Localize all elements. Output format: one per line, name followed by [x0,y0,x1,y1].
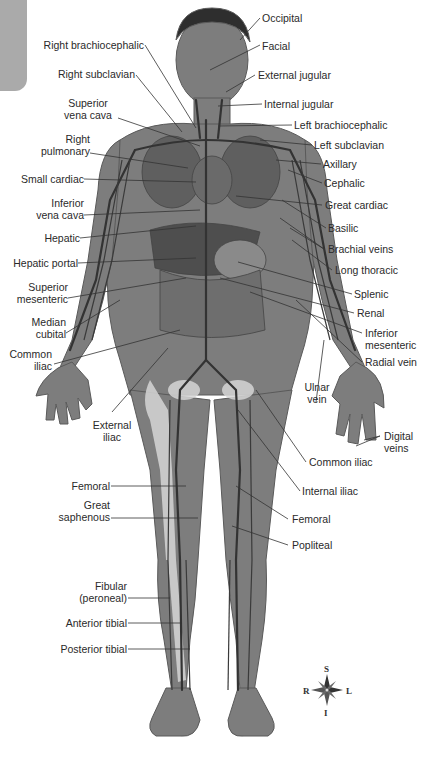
label-popliteal: Popliteal [292,539,332,551]
label-common-iliac-right: Common iliac [309,456,373,468]
label-ulnar-vein: Ulnar vein [300,381,334,405]
label-femoral-right: Femoral [292,513,331,525]
label-internal-iliac: Internal iliac [302,485,358,497]
label-facial: Facial [262,40,290,52]
label-femoral-left: Femoral [71,480,110,492]
label-fibular: Fibular (peroneal) [79,580,127,604]
label-internal-jugular: Internal jugular [264,98,333,110]
label-small-cardiac: Small cardiac [21,173,84,185]
compass-right: R [303,686,310,696]
label-hepatic: Hepatic [44,232,80,244]
label-inferior-mesenteric: Inferior mesenteric [365,327,416,351]
compass-left: L [346,686,352,696]
label-renal: Renal [357,307,384,319]
label-basilic: Basilic [328,222,358,234]
label-splenic: Splenic [354,288,388,300]
label-median-cubital: Median cubital [32,316,66,340]
label-right-brachiocephalic: Right brachiocephalic [44,39,144,51]
label-inferior-vena-cava: Inferior vena cava [36,197,84,221]
label-long-thoracic: Long thoracic [335,264,398,276]
compass-superior: S [324,664,329,674]
label-posterior-tibial: Posterior tibial [60,643,127,655]
label-anterior-tibial: Anterior tibial [66,617,127,629]
label-external-jugular: External jugular [258,69,331,81]
label-common-iliac-left: Common iliac [9,348,52,372]
label-left-subclavian: Left subclavian [314,139,384,151]
label-brachial-veins: Brachial veins [328,243,393,255]
label-external-iliac: External iliac [86,419,138,443]
label-superior-vena-cava: Superior vena cava [58,97,118,121]
label-radial-vein: Radial vein [365,356,417,368]
label-great-cardiac: Great cardiac [325,199,388,211]
compass-inferior: I [324,708,328,718]
label-right-subclavian: Right subclavian [58,68,135,80]
label-great-saphenous: Great saphenous [59,499,110,523]
label-left-brachiocephalic: Left brachiocephalic [294,119,387,131]
label-digital-veins: Digital veins [384,430,413,454]
label-right-pulmonary: Right pulmonary [41,133,90,157]
compass-rose-icon [311,674,343,706]
label-hepatic-portal: Hepatic portal [13,257,78,269]
label-occipital: Occipital [262,12,302,24]
label-superior-mesenteric: Superior mesenteric [17,281,68,305]
label-axillary: Axillary [323,158,357,170]
label-cephalic: Cephalic [324,177,365,189]
